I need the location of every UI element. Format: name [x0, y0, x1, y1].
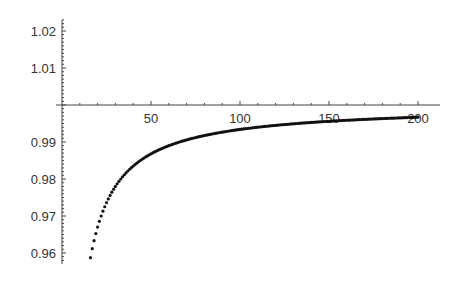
data-point [416, 116, 419, 119]
data-point [98, 220, 101, 223]
data-point [100, 214, 103, 217]
data-point [92, 239, 95, 242]
plot-area: 501001502000.960.970.980.991.011.02 [0, 0, 457, 281]
data-point [105, 201, 108, 204]
x-tick-label: 100 [229, 111, 251, 126]
data-point [94, 232, 97, 235]
data-point [96, 226, 99, 229]
data-point [91, 247, 94, 250]
data-point [108, 194, 111, 197]
data-point [101, 210, 104, 213]
x-tick-label: 50 [144, 111, 158, 126]
y-tick-label: 1.01 [31, 61, 56, 76]
data-point [89, 256, 92, 259]
data-point [114, 185, 117, 188]
x-tick-label: 150 [318, 111, 340, 126]
y-tick-label: 0.99 [31, 135, 56, 150]
y-tick-label: 0.96 [31, 246, 56, 261]
y-tick-label: 0.97 [31, 209, 56, 224]
data-point [110, 191, 113, 194]
data-point [107, 197, 110, 200]
chart: 501001502000.960.970.980.991.011.02 [0, 0, 457, 281]
data-point [112, 188, 115, 191]
y-tick-label: 1.02 [31, 24, 56, 39]
data-point [103, 205, 106, 208]
y-tick-label: 0.98 [31, 172, 56, 187]
